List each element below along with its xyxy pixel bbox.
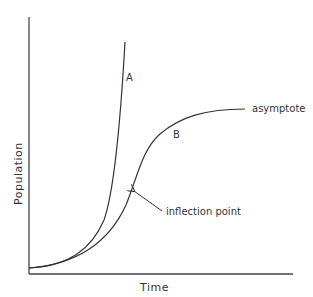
curve-b-label: B bbox=[173, 129, 180, 140]
growth-curve-diagram: A B asymptote inflection point Time Popu… bbox=[0, 0, 313, 297]
curve-b-logistic bbox=[29, 109, 245, 268]
inflection-arrow-icon bbox=[134, 191, 162, 211]
x-axis-title: Time bbox=[139, 281, 169, 294]
curve-a-exponential bbox=[29, 42, 125, 268]
y-axis-title: Population bbox=[12, 142, 25, 205]
curve-a-label: A bbox=[126, 72, 133, 83]
asymptote-label: asymptote bbox=[252, 103, 305, 114]
inflection-point-label: inflection point bbox=[166, 206, 241, 217]
